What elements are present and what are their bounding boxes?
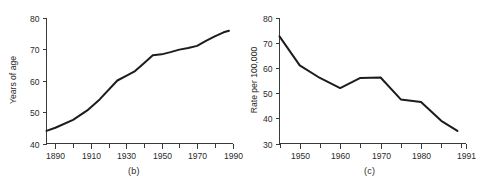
x-tick-label: 1990 <box>224 151 243 161</box>
x-tick-label: 1970 <box>372 151 391 161</box>
chart-b-data-line <box>47 31 229 131</box>
y-tick-label: 60 <box>30 77 40 87</box>
chart-c-y-tick-labels: 304050607080 <box>263 14 273 150</box>
chart-b-y-tick-labels: 4050607080 <box>30 14 40 150</box>
chart-panel-b: 4050607080 189019101930195019701990 Year… <box>0 0 246 191</box>
chart-b-x-ticks <box>56 144 234 149</box>
y-tick-label: 70 <box>30 45 40 55</box>
chart-c-x-tick-labels: 19501960197019801991 <box>291 151 476 161</box>
chart-c-caption: (c) <box>364 166 375 176</box>
chart-b-axis-frame <box>47 18 233 144</box>
chart-c-data-line <box>280 36 458 130</box>
x-tick-label: 1910 <box>82 151 101 161</box>
y-tick-label: 60 <box>263 64 273 74</box>
chart-b-x-tick-labels: 189019101930195019701990 <box>46 151 243 161</box>
y-tick-label: 80 <box>30 14 40 24</box>
y-tick-label: 50 <box>30 108 40 118</box>
y-tick-label: 30 <box>263 140 273 150</box>
x-tick-label: 1950 <box>291 151 310 161</box>
chart-c-y-axis-title: Rate per 100,000 <box>249 47 259 114</box>
chart-c-axes <box>280 18 466 144</box>
y-tick-label: 70 <box>263 39 273 49</box>
chart-panel-c: 304050607080 19501960197019801991 Rate p… <box>246 0 492 191</box>
figure-sheet: 4050607080 189019101930195019701990 Year… <box>0 0 492 191</box>
chart-b-y-axis-title: Years of age <box>8 56 18 104</box>
y-tick-label: 40 <box>263 114 273 124</box>
x-tick-label: 1991 <box>457 151 476 161</box>
x-tick-label: 1980 <box>412 151 431 161</box>
y-tick-label: 80 <box>263 14 273 24</box>
chart-b-svg: 4050607080 189019101930195019701990 Year… <box>0 0 246 191</box>
chart-c-x-ticks <box>281 144 467 149</box>
chart-c-svg: 304050607080 19501960197019801991 Rate p… <box>246 0 492 191</box>
x-tick-label: 1960 <box>331 151 350 161</box>
y-tick-label: 40 <box>30 140 40 150</box>
x-tick-label: 1930 <box>117 151 136 161</box>
x-tick-label: 1950 <box>153 151 172 161</box>
chart-b-axes <box>47 18 233 144</box>
chart-c-y-ticks <box>276 19 280 145</box>
chart-c-axis-frame <box>280 18 466 144</box>
x-tick-label: 1970 <box>188 151 207 161</box>
chart-b-y-ticks <box>43 19 47 145</box>
x-tick-label: 1890 <box>46 151 65 161</box>
y-tick-label: 50 <box>263 89 273 99</box>
chart-b-caption: (b) <box>128 166 140 176</box>
